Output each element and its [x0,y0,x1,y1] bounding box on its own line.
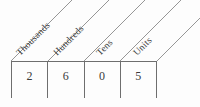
digit-cell-tens: 0 [84,61,120,98]
digit-value-units: 5 [135,62,141,82]
digit-cell-units: 5 [120,61,157,98]
leader-line-units-right [157,18,200,61]
digit-cell-thousands: 2 [11,61,47,98]
leader-line-tens-right [120,0,181,61]
digit-value-hundreds: 6 [63,62,69,82]
digit-value-tens: 0 [99,62,105,82]
place-value-chart: Thousands Hundreds Tens Units 2 6 0 5 [0,0,200,107]
digit-value-thousands: 2 [27,62,33,82]
digit-cell-hundreds: 6 [47,61,83,98]
digit-row: 2 6 0 5 [11,61,157,98]
